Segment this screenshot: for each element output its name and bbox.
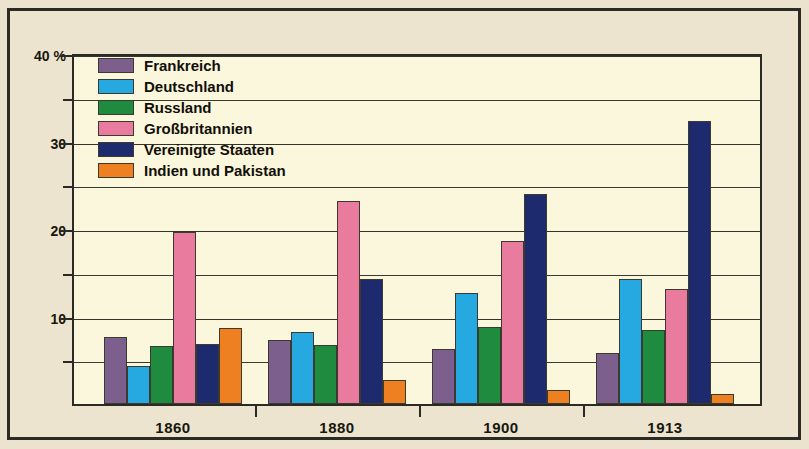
y-tick-10 xyxy=(60,318,74,320)
bar xyxy=(455,293,478,404)
gridline-25 xyxy=(74,187,760,188)
x-axis-tick-label: 1880 xyxy=(319,419,354,436)
legend-item: Frankreich xyxy=(98,55,286,75)
x-axis-separator xyxy=(583,404,585,417)
bar xyxy=(501,241,524,404)
legend-item-label: Vereinigte Staaten xyxy=(144,142,274,157)
legend-swatch-icon xyxy=(98,142,134,157)
bar xyxy=(665,289,688,404)
bar xyxy=(711,394,734,404)
legend-item: Russland xyxy=(98,97,286,117)
legend-item: Deutschland xyxy=(98,76,286,96)
bar xyxy=(596,353,619,404)
x-axis-tick-label: 1913 xyxy=(647,419,682,436)
bar xyxy=(337,201,360,404)
bar xyxy=(268,340,291,404)
chart-frame: 40 %302010 1860188019001913 FrankreichDe… xyxy=(7,8,801,440)
legend-item: Vereinigte Staaten xyxy=(98,139,286,159)
y-tick-20 xyxy=(60,230,74,232)
legend-item: Großbritannien xyxy=(98,118,286,138)
legend-swatch-icon xyxy=(98,100,134,115)
bar xyxy=(619,279,642,404)
legend-item-label: Deutschland xyxy=(144,79,234,94)
x-axis-tick-label: 1860 xyxy=(155,419,190,436)
bar xyxy=(642,330,665,404)
bar xyxy=(478,327,501,404)
bar xyxy=(314,345,337,405)
x-axis-tick-label: 1900 xyxy=(483,419,518,436)
bar xyxy=(688,121,711,404)
bar xyxy=(219,328,242,404)
legend-swatch-icon xyxy=(98,163,134,178)
bar xyxy=(524,194,547,404)
chart-page: 40 %302010 1860188019001913 FrankreichDe… xyxy=(0,0,809,449)
y-tick-40 xyxy=(60,55,74,57)
legend-swatch-icon xyxy=(98,58,134,73)
y-tick-35 xyxy=(63,99,74,101)
chart-legend: FrankreichDeutschlandRusslandGroßbritann… xyxy=(98,55,286,181)
legend-item-label: Frankreich xyxy=(144,58,221,73)
y-tick-5 xyxy=(63,361,74,363)
bar xyxy=(196,344,219,404)
x-axis-labels: 1860188019001913 xyxy=(10,419,809,445)
bar xyxy=(383,380,406,405)
bar xyxy=(150,346,173,404)
bar xyxy=(432,349,455,404)
x-axis-separator xyxy=(255,404,257,417)
bar xyxy=(104,337,127,404)
y-tick-30 xyxy=(60,143,74,145)
bar xyxy=(173,232,196,404)
bar xyxy=(547,390,570,404)
legend-item-label: Indien und Pakistan xyxy=(144,163,286,178)
bar xyxy=(360,279,383,404)
bar xyxy=(127,366,150,404)
legend-item-label: Großbritannien xyxy=(144,121,252,136)
legend-swatch-icon xyxy=(98,79,134,94)
bar xyxy=(291,332,314,404)
y-tick-25 xyxy=(63,186,74,188)
legend-swatch-icon xyxy=(98,121,134,136)
legend-item: Indien und Pakistan xyxy=(98,160,286,180)
legend-item-label: Russland xyxy=(144,100,212,115)
x-axis-separator xyxy=(419,404,421,417)
y-tick-15 xyxy=(63,274,74,276)
